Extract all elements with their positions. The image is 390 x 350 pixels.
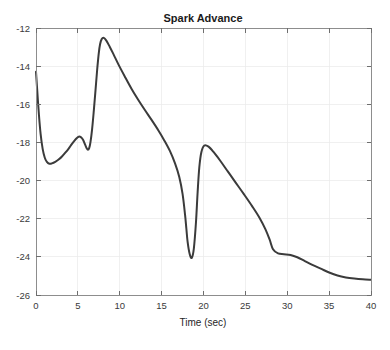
y-tick-label: -24 — [16, 251, 30, 262]
x-tick-label: 35 — [324, 300, 335, 311]
figure-container: Spark Advance 0510152025303540 -26-24-22… — [0, 0, 390, 350]
x-tick-label: 5 — [75, 300, 80, 311]
x-axis-label: Time (sec) — [180, 317, 227, 328]
x-tick-label: 10 — [114, 300, 125, 311]
chart-title: Spark Advance — [163, 12, 242, 24]
x-tick-label: 30 — [282, 300, 293, 311]
x-tick-label: 25 — [240, 300, 251, 311]
y-tick-label: -18 — [16, 137, 30, 148]
x-tick-label: 20 — [198, 300, 209, 311]
x-tick-label: 40 — [366, 300, 377, 311]
y-tick-label: -16 — [16, 99, 30, 110]
x-tick-label: 15 — [156, 300, 167, 311]
x-tick-label: 0 — [33, 300, 38, 311]
spark-advance-chart: Spark Advance 0510152025303540 -26-24-22… — [0, 0, 390, 350]
y-tick-label: -26 — [16, 290, 30, 301]
y-tick-label: -20 — [16, 175, 30, 186]
y-tick-label: -14 — [16, 61, 30, 72]
y-tick-label: -12 — [16, 23, 30, 34]
y-tick-label: -22 — [16, 213, 30, 224]
